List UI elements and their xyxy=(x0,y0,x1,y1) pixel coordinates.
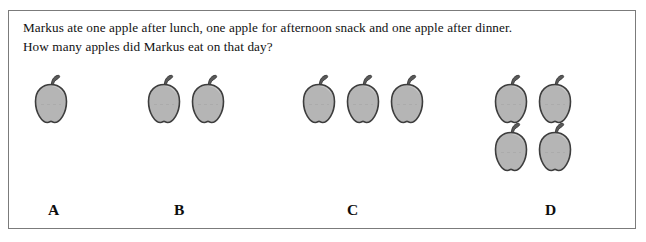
answer-option-c-label: C xyxy=(347,201,358,219)
answer-option-d[interactable]: D xyxy=(489,73,577,169)
apple-icon xyxy=(29,73,73,128)
answer-option-c[interactable]: C xyxy=(297,73,429,128)
answer-option-d-apples xyxy=(489,73,577,169)
answer-option-d-label: D xyxy=(545,201,556,219)
apple-icon xyxy=(489,121,533,176)
apple-icon xyxy=(533,121,577,176)
question-prompt: Markus ate one apple after lunch, one ap… xyxy=(23,18,623,56)
question-prompt-line-2: How many apples did Markus eat on that d… xyxy=(23,37,623,56)
worksheet-page: Markus ate one apple after lunch, one ap… xyxy=(0,0,646,242)
apple-icon xyxy=(297,73,341,128)
apple-icon xyxy=(489,73,533,128)
answer-option-a-apples xyxy=(29,73,73,128)
apple-icon xyxy=(341,73,385,128)
answer-option-b-apples xyxy=(142,73,230,128)
apple-icon xyxy=(385,73,429,128)
answer-option-a[interactable]: A xyxy=(29,73,73,128)
question-box: Markus ate one apple after lunch, one ap… xyxy=(8,10,636,229)
question-prompt-line-1: Markus ate one apple after lunch, one ap… xyxy=(23,18,623,37)
apple-icon xyxy=(142,73,186,128)
apple-icon xyxy=(533,73,577,128)
answer-option-a-label: A xyxy=(48,201,59,219)
answer-option-c-apples xyxy=(297,73,429,128)
answer-option-b-label: B xyxy=(174,201,184,219)
apple-icon xyxy=(186,73,230,128)
answer-option-b[interactable]: B xyxy=(142,73,230,128)
